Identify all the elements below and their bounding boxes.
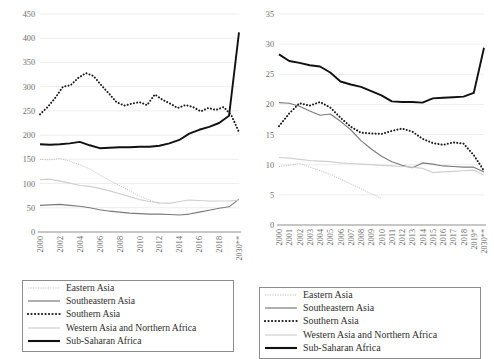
x-axis-tick-label: 2000 bbox=[36, 236, 45, 252]
legend-swatch-eastern-asia-icon bbox=[27, 282, 61, 294]
line-chart-right: 0510152025303520002001200220032004200520… bbox=[247, 0, 494, 280]
x-axis-tick-label: 2008 bbox=[357, 229, 366, 245]
x-axis-tick-label: 2016 bbox=[439, 229, 448, 245]
x-axis-tick-label: 2011 bbox=[388, 229, 397, 245]
legend-left: Eastern Asia Southeastern Asia Southern … bbox=[22, 280, 234, 352]
y-axis-tick-label: 0 bbox=[31, 228, 35, 237]
plot-area-left: 0501001502002503003504004502000200220042… bbox=[0, 0, 247, 280]
plot-area-right: 0510152025303520002001200220032004200520… bbox=[247, 0, 494, 280]
legend-item-southeastern-asia: Southeastern Asia bbox=[23, 294, 233, 307]
y-axis-tick-label: 200 bbox=[23, 131, 35, 140]
y-axis-tick-label: 20 bbox=[266, 100, 274, 109]
legend-swatch-western-asia-icon bbox=[27, 322, 61, 334]
legend-item-southeastern-asia: Southeastern Asia bbox=[260, 301, 480, 314]
legend-label-southern-asia: Southern Asia bbox=[66, 309, 120, 319]
y-axis-tick-label: 150 bbox=[23, 155, 35, 164]
chart-panel-right: 0510152025303520002001200220032004200520… bbox=[247, 0, 494, 357]
legend-label-southeastern-asia: Southeastern Asia bbox=[66, 296, 135, 306]
x-axis-tick-label: 2004 bbox=[316, 229, 325, 245]
y-axis-tick-label: 35 bbox=[266, 10, 274, 19]
legend-swatch-southern-asia-icon bbox=[264, 315, 298, 327]
legend-swatch-eastern-asia-icon bbox=[264, 289, 298, 301]
series-line-southern-asia bbox=[40, 73, 239, 132]
legend-item-southern-asia: Southern Asia bbox=[260, 315, 480, 328]
legend-item-eastern-asia: Eastern Asia bbox=[23, 281, 233, 294]
y-axis-tick-label: 5 bbox=[270, 191, 274, 200]
legend-swatch-southern-asia-icon bbox=[27, 308, 61, 320]
series-line-sub-saharan-africa bbox=[40, 32, 239, 148]
series-line-southeastern-asia bbox=[279, 103, 484, 172]
x-axis-tick-label: 2014 bbox=[419, 229, 428, 245]
legend-label-eastern-asia: Eastern Asia bbox=[303, 290, 353, 300]
legend-label-southeastern-asia: Southeastern Asia bbox=[303, 303, 374, 313]
x-axis-tick-label: 2030** bbox=[480, 229, 489, 254]
x-axis-tick-label: 2008 bbox=[116, 236, 125, 252]
x-axis-tick-label: 2003 bbox=[306, 229, 315, 245]
y-axis-tick-label: 50 bbox=[27, 204, 35, 213]
legend-item-sub-saharan-africa: Sub-Saharan Africa bbox=[260, 342, 480, 355]
y-axis-tick-label: 400 bbox=[23, 34, 35, 43]
x-axis-tick-label: 2002 bbox=[56, 236, 65, 252]
x-axis-tick-label: 2006 bbox=[96, 236, 105, 252]
x-axis-tick-label: 2004 bbox=[76, 236, 85, 252]
legend-item-western-asia-northern-africa: Western Asia and Northern Africa bbox=[260, 328, 480, 341]
series-line-sub-saharan-africa bbox=[279, 48, 484, 103]
y-axis-tick-label: 10 bbox=[266, 161, 274, 170]
x-axis-tick-label: 2017 bbox=[449, 229, 458, 245]
legend-right: Eastern Asia Southeastern Asia Southern … bbox=[259, 287, 481, 359]
x-axis-tick-label: 2002 bbox=[296, 229, 305, 245]
x-axis-tick-label: 2006 bbox=[337, 229, 346, 245]
legend-item-eastern-asia: Eastern Asia bbox=[260, 288, 480, 301]
x-axis-tick-label: 2019* bbox=[470, 229, 479, 249]
y-axis-tick-label: 300 bbox=[23, 83, 35, 92]
legend-swatch-southeastern-asia-icon bbox=[27, 295, 61, 307]
x-axis-tick-label: 2012 bbox=[155, 236, 164, 252]
x-axis-tick-label: 2001 bbox=[285, 229, 294, 245]
x-axis-tick-label: 2013 bbox=[408, 229, 417, 245]
series-line-western-asia-northern-africa bbox=[40, 179, 239, 203]
legend-item-western-asia-northern-africa: Western Asia and Northern Africa bbox=[23, 321, 233, 334]
legend-label-western-asia-northern-africa: Western Asia and Northern Africa bbox=[66, 323, 196, 333]
legend-label-sub-saharan-africa: Sub-Saharan Africa bbox=[66, 336, 141, 346]
y-axis-tick-label: 25 bbox=[266, 70, 274, 79]
line-chart-left: 0501001502002503003504004502000200220042… bbox=[0, 0, 247, 280]
y-axis-tick-label: 15 bbox=[266, 131, 274, 140]
legend-label-sub-saharan-africa: Sub-Saharan Africa bbox=[303, 343, 381, 353]
y-axis-tick-label: 450 bbox=[23, 10, 35, 19]
x-axis-tick-label: 2030** bbox=[235, 236, 244, 261]
x-axis-tick-label: 2012 bbox=[398, 229, 407, 245]
legend-item-sub-saharan-africa: Sub-Saharan Africa bbox=[23, 335, 233, 348]
legend-swatch-southeastern-asia-icon bbox=[264, 302, 298, 314]
x-axis-tick-label: 2007 bbox=[347, 229, 356, 245]
legend-swatch-western-asia-icon bbox=[264, 329, 298, 341]
x-axis-tick-label: 2000 bbox=[275, 229, 284, 245]
legend-label-southern-asia: Southern Asia bbox=[303, 316, 359, 326]
x-axis-tick-label: 2018 bbox=[460, 229, 469, 245]
series-line-eastern-asia bbox=[279, 164, 382, 199]
x-axis-tick-label: 2016 bbox=[195, 236, 204, 252]
x-axis-tick-label: 2018 bbox=[215, 236, 224, 252]
legend-label-western-asia-northern-africa: Western Asia and Northern Africa bbox=[303, 330, 437, 340]
legend-swatch-sub-saharan-africa-icon bbox=[264, 342, 298, 354]
x-axis-tick-label: 2010 bbox=[378, 229, 387, 245]
legend-label-eastern-asia: Eastern Asia bbox=[66, 283, 114, 293]
x-axis-tick-label: 2014 bbox=[175, 236, 184, 252]
y-axis-tick-label: 0 bbox=[270, 221, 274, 230]
chart-panel-left: 0501001502002503003504004502000200220042… bbox=[0, 0, 247, 357]
x-axis-tick-label: 2010 bbox=[136, 236, 145, 252]
x-axis-tick-label: 2015 bbox=[429, 229, 438, 245]
legend-item-southern-asia: Southern Asia bbox=[23, 308, 233, 321]
y-axis-tick-label: 250 bbox=[23, 107, 35, 116]
y-axis-tick-label: 350 bbox=[23, 58, 35, 67]
y-axis-tick-label: 100 bbox=[23, 180, 35, 189]
x-axis-tick-label: 2005 bbox=[326, 229, 335, 245]
x-axis-tick-label: 2009 bbox=[367, 229, 376, 245]
legend-swatch-sub-saharan-africa-icon bbox=[27, 335, 61, 347]
y-axis-tick-label: 30 bbox=[266, 40, 274, 49]
